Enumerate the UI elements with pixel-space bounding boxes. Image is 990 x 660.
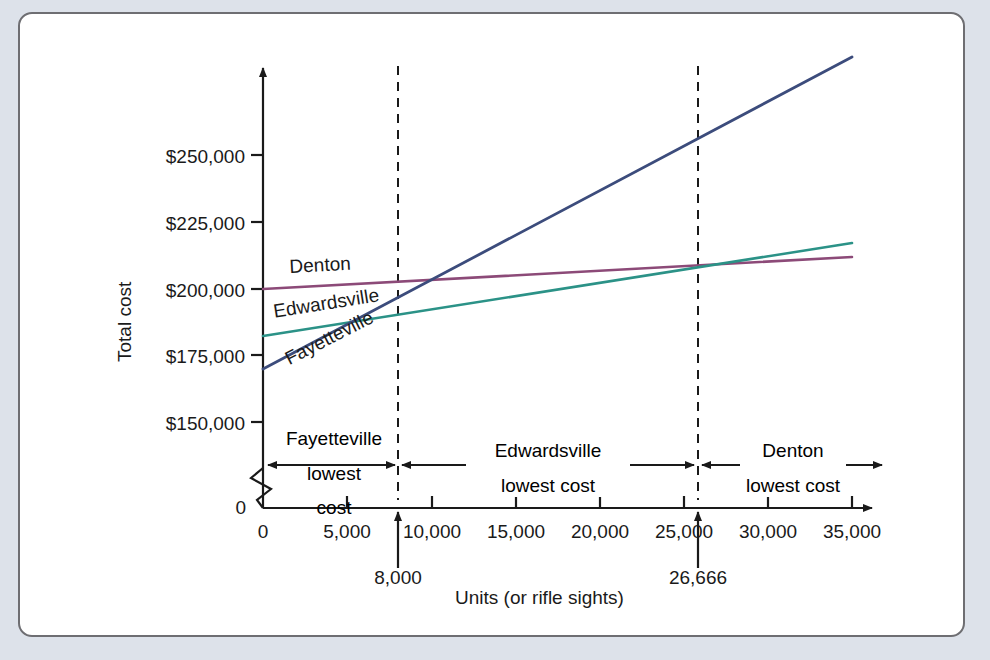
x-tick-label-0: 0: [243, 522, 283, 541]
x-tick-label-5000: 5,000: [302, 522, 392, 541]
y-tick-label-200000: $200,000: [150, 281, 245, 300]
region-label-fayetteville: Fayetteville lowest cost: [272, 428, 396, 519]
y-axis-ticks: [251, 155, 263, 422]
region-label-edwardsville: Edwardsville lowest cost: [466, 440, 630, 497]
region-label-denton: Denton lowest cost: [740, 440, 846, 497]
y-tick-label-250000: $250,000: [150, 147, 245, 166]
x-axis-ticks: [347, 496, 852, 508]
chart-page: Total cost $250,000 $225,000 $200,000 $1…: [0, 0, 990, 660]
region-label-denton-line2: lowest cost: [740, 475, 846, 497]
series-line-denton: [263, 257, 852, 289]
x-axis-title: Units (or rifle sights): [455, 588, 624, 607]
cost-comparison-chart: [0, 0, 990, 660]
region-label-edwardsville-line2: lowest cost: [466, 475, 630, 497]
y-tick-label-150000: $150,000: [150, 414, 245, 433]
breakeven-label-26666: 26,666: [640, 568, 756, 587]
region-label-fayetteville-line2: lowest: [272, 463, 396, 485]
y-axis-title: Total cost: [115, 282, 134, 362]
region-label-fayetteville-line3: cost: [272, 497, 396, 519]
region-label-fayetteville-line1: Fayetteville: [272, 428, 396, 450]
y-tick-label-225000: $225,000: [150, 214, 245, 233]
y-tick-label-175000: $175,000: [150, 347, 245, 366]
series-label-denton: Denton: [289, 254, 351, 276]
region-label-denton-line1: Denton: [740, 440, 846, 462]
region-label-edwardsville-line1: Edwardsville: [466, 440, 630, 462]
x-tick-label-35000: 35,000: [800, 522, 904, 541]
breakeven-label-8000: 8,000: [348, 568, 448, 587]
y-axis-break-icon: [251, 468, 271, 508]
y-axis-origin-label: 0: [210, 498, 246, 517]
